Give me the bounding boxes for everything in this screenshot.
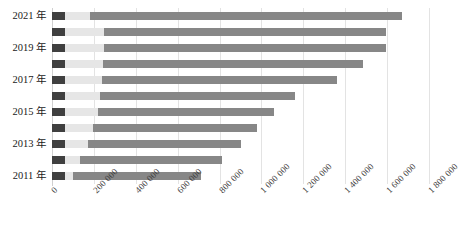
- x-axis-tick-labels: 0200 000400 000600 000800 0001 000 0001 …: [0, 186, 429, 244]
- bar-segment-segment-2: [65, 44, 104, 52]
- bar-segment-segment-1: [52, 156, 65, 164]
- bar-row: [52, 60, 429, 68]
- bar-segment-segment-1: [52, 12, 65, 20]
- y-axis-tick-2019年: 2019 年: [12, 43, 46, 53]
- bar-segment-segment-2: [65, 12, 90, 20]
- bar-segment-segment-2: [65, 172, 73, 180]
- bar-segment-segment-1: [52, 76, 65, 84]
- bar-segment-segment-1: [52, 140, 65, 148]
- plot-area: [52, 8, 429, 184]
- bar-segment-segment-2: [65, 108, 98, 116]
- bar-segment-segment-3: [73, 172, 201, 180]
- bar-row: [52, 124, 429, 132]
- bar-row: [52, 92, 429, 100]
- bar-segment-segment-3: [80, 156, 222, 164]
- bar-row: [52, 140, 429, 148]
- bar-segment-segment-2: [65, 60, 103, 68]
- bar-segment-segment-1: [52, 44, 65, 52]
- bar-segment-segment-2: [65, 156, 80, 164]
- bar-segment-segment-3: [103, 60, 363, 68]
- y-axis-tick-2017年: 2017 年: [12, 75, 46, 85]
- y-axis-tick-2013年: 2013 年: [12, 139, 46, 149]
- bar-segment-segment-3: [98, 108, 274, 116]
- bar-segment-segment-3: [104, 44, 387, 52]
- bar-segment-segment-3: [88, 140, 241, 148]
- bar-segment-segment-1: [52, 108, 65, 116]
- bar-row: [52, 156, 429, 164]
- bar-row: [52, 28, 429, 36]
- x-axis-tick-1800000: 1 800 000: [426, 161, 460, 195]
- gridline: [429, 8, 430, 184]
- bar-segment-segment-3: [93, 124, 257, 132]
- y-axis-tick-2015年: 2015 年: [12, 107, 46, 117]
- bar-segment-segment-2: [65, 124, 93, 132]
- bar-segment-segment-2: [65, 76, 102, 84]
- bar-segment-segment-1: [52, 60, 65, 68]
- y-axis-tick-2011年: 2011 年: [13, 171, 46, 181]
- bar-segment-segment-3: [100, 92, 295, 100]
- y-axis-tick-2021年: 2021 年: [12, 11, 46, 21]
- bar-segment-segment-2: [65, 28, 104, 36]
- y-axis-tick-labels: 2021 年2019 年2017 年2015 年2013 年2011 年: [0, 8, 50, 184]
- bar-segment-segment-1: [52, 92, 65, 100]
- bar-segment-segment-1: [52, 124, 65, 132]
- bar-row: [52, 12, 429, 20]
- bar-segment-segment-3: [102, 76, 337, 84]
- bar-segment-segment-1: [52, 28, 65, 36]
- x-axis-tick-0: 0: [49, 185, 59, 195]
- bar-segment-segment-2: [65, 92, 100, 100]
- bar-row: [52, 76, 429, 84]
- bar-segment-segment-1: [52, 172, 65, 180]
- bar-segment-segment-3: [90, 12, 401, 20]
- bar-segment-segment-2: [65, 140, 88, 148]
- bar-row: [52, 108, 429, 116]
- bar-row: [52, 44, 429, 52]
- bar-segment-segment-3: [104, 28, 386, 36]
